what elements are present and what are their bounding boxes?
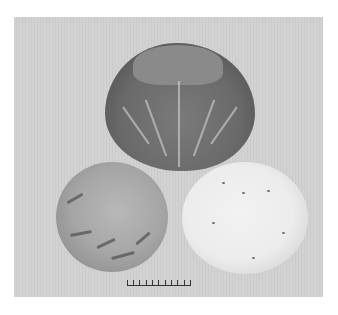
leaf-fold [70, 230, 92, 237]
speck [242, 192, 245, 194]
speck [282, 232, 285, 234]
scale-bar-line [127, 285, 191, 286]
scale-tick [133, 280, 134, 286]
leaf-fold [135, 232, 151, 246]
cabbage-top-leaf [133, 45, 223, 85]
scale-tick [190, 280, 191, 286]
scale-tick [171, 280, 172, 286]
speck [267, 190, 270, 192]
leaf-fold [111, 251, 135, 260]
scale-tick [184, 280, 185, 286]
leaf-fold [66, 193, 83, 205]
speck [222, 182, 225, 184]
scale-tick [177, 280, 178, 286]
cut-cabbage-cross-section [182, 162, 308, 274]
photo-area [14, 17, 323, 297]
scale-tick [127, 280, 128, 286]
cabbage-vein [210, 106, 237, 144]
cabbage-vein [145, 99, 167, 156]
speck [252, 257, 255, 259]
leaf-fold [96, 238, 115, 249]
whole-cabbage-top [105, 43, 255, 171]
scale-tick [158, 280, 159, 286]
speck [212, 222, 215, 224]
cabbage-vein [193, 99, 215, 156]
scale-bar [127, 279, 191, 286]
cabbage-vein [178, 81, 180, 167]
scale-tick [152, 280, 153, 286]
scale-tick [146, 280, 147, 286]
scale-tick [165, 280, 166, 286]
cabbage-vein [122, 106, 149, 144]
scale-tick [139, 280, 140, 286]
whole-cabbage-bottom-left [56, 162, 168, 272]
